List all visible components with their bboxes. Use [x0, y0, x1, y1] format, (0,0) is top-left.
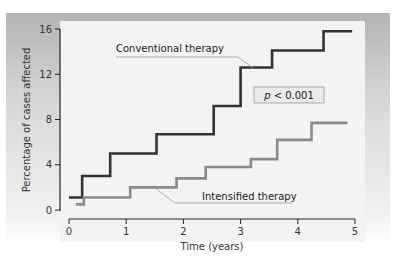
intensified-therapy-label: Intensified therapy [155, 188, 297, 203]
y-tick-label: 16 [39, 24, 52, 35]
x-tick-label: 5 [352, 226, 358, 237]
svg-text:p < 0.001: p < 0.001 [263, 90, 314, 101]
x-tick-label: 2 [180, 226, 186, 237]
y-tick-label: 8 [46, 114, 52, 125]
svg-text:Conventional therapy: Conventional therapy [116, 43, 224, 54]
conventional-therapy-line [69, 31, 352, 197]
p-value: < 0.001 [270, 90, 313, 101]
y-axis-title: Percentage of cases affected [21, 48, 32, 193]
chart-figure: 0481216 012345 Percentage of cases affec… [0, 0, 394, 267]
svg-text:Intensified therapy: Intensified therapy [202, 191, 297, 202]
x-tick-label: 4 [295, 226, 301, 237]
conventional-therapy-label: Conventional therapy [116, 43, 253, 68]
y-tick-label: 4 [46, 159, 52, 170]
x-axis-title: Time (years) [180, 241, 244, 252]
x-tick-label: 1 [123, 226, 129, 237]
y-tick-label: 0 [46, 205, 52, 216]
p-symbol: p [263, 90, 270, 101]
x-tick-label: 0 [66, 226, 72, 237]
x-axis: 012345 [66, 219, 358, 237]
p-value-box: p < 0.001 [254, 87, 324, 103]
chart-svg: 0481216 012345 Percentage of cases affec… [0, 0, 394, 267]
y-axis: 0481216 [39, 24, 60, 216]
x-tick-label: 3 [237, 226, 243, 237]
y-tick-label: 12 [39, 69, 52, 80]
